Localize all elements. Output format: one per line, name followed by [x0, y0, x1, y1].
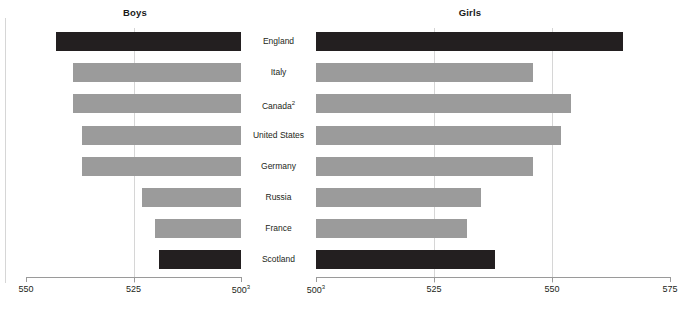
bar-row [316, 157, 670, 176]
bar-row [26, 250, 241, 269]
bar-row [316, 126, 670, 145]
bar-girls-canada [316, 94, 571, 113]
bar-girls-england [316, 32, 623, 51]
bar-girls-france [316, 219, 467, 238]
bar-row [316, 188, 670, 207]
axis-tick-label: 550 [18, 284, 33, 294]
bar-row [316, 219, 670, 238]
bar-row [26, 188, 241, 207]
bar-row [26, 219, 241, 238]
axis-tick-label: 575 [662, 284, 677, 294]
bar-row [26, 94, 241, 113]
bar-row [316, 63, 670, 82]
bar-boys-russia [142, 188, 241, 207]
bar-boys-germany [82, 157, 241, 176]
bar-girls-united-states [316, 126, 561, 145]
panel-title-boys: Boys [90, 7, 180, 18]
axis-tick [134, 277, 135, 282]
category-label-russia: Russia [241, 188, 316, 207]
category-label-england: England [241, 32, 316, 51]
bar-boys-united-states [82, 126, 241, 145]
axis-tick [26, 277, 27, 282]
plot-area-girls: 5003525550575 [316, 28, 670, 283]
bar-boys-canada [73, 94, 241, 113]
axis-tick [670, 277, 671, 282]
bar-row [26, 32, 241, 51]
category-label-column: EnglandItalyCanada2United StatesGermanyR… [241, 28, 316, 283]
category-label-united-states: United States [241, 126, 316, 145]
chart-figure: Boys Girls 5505255003 5003525550575 Engl… [0, 0, 687, 316]
bar-girls-italy [316, 63, 533, 82]
figure-left-rule [5, 18, 6, 283]
axis-tick-label: 5003 [307, 284, 325, 295]
axis-tick-label: 525 [126, 284, 141, 294]
bar-row [316, 94, 670, 113]
bar-row [26, 126, 241, 145]
bar-boys-england [56, 32, 241, 51]
bar-row [316, 32, 670, 51]
category-label-canada: Canada2 [241, 94, 316, 116]
bar-boys-italy [73, 63, 241, 82]
category-label-germany: Germany [241, 157, 316, 176]
category-label-scotland: Scotland [241, 250, 316, 269]
x-axis-line [316, 277, 670, 278]
axis-tick-label: 550 [544, 284, 559, 294]
bar-boys-scotland [159, 250, 241, 269]
plot-area-boys: 5505255003 [26, 28, 241, 283]
bar-girls-scotland [316, 250, 495, 269]
bar-row [26, 63, 241, 82]
axis-tick [552, 277, 553, 282]
bar-row [26, 157, 241, 176]
category-label-italy: Italy [241, 63, 316, 82]
panel-title-girls: Girls [425, 7, 515, 18]
axis-tick-label: 525 [426, 284, 441, 294]
bar-boys-france [155, 219, 241, 238]
bar-girls-germany [316, 157, 533, 176]
category-label-france: France [241, 219, 316, 238]
axis-tick [434, 277, 435, 282]
bar-row [316, 250, 670, 269]
axis-tick [316, 277, 317, 282]
axis-tick-label: 5003 [232, 284, 250, 295]
bar-girls-russia [316, 188, 481, 207]
